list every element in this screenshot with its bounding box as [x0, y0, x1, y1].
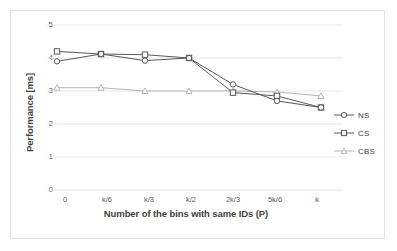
legend-item-cbs[interactable]: CBS [333, 142, 393, 160]
data-point-ns-k/6 [98, 51, 103, 56]
legend-marker-triangle-icon [333, 145, 355, 157]
legend-marker-circle-icon [333, 109, 355, 121]
series-cbs [54, 85, 324, 99]
data-point-ns-k/2 [186, 55, 191, 60]
data-point-cs-0 [54, 49, 59, 54]
chart-legend: NS CS CBS [333, 106, 393, 160]
data-point-cs-2k/3 [230, 90, 235, 95]
series-line-ns [57, 54, 321, 107]
chart-figure: Performance [ms] Number of the bins with… [10, 10, 385, 239]
data-point-ns-k [318, 105, 323, 110]
data-point-cs-k/3 [142, 52, 147, 57]
plot-canvas [11, 11, 386, 240]
legend-marker-square-icon [333, 127, 355, 139]
legend-item-ns[interactable]: NS [333, 106, 393, 124]
data-point-ns-0 [54, 59, 59, 64]
data-point-ns-5k/6 [274, 98, 279, 103]
data-point-ns-k/3 [142, 58, 147, 63]
data-point-ns-2k/3 [230, 82, 235, 87]
legend-item-cs[interactable]: CS [333, 124, 393, 142]
legend-label-cbs: CBS [358, 147, 375, 156]
legend-label-cs: CS [358, 129, 370, 138]
series-ns [54, 51, 323, 110]
legend-label-ns: NS [358, 111, 370, 120]
gridlines [47, 25, 343, 190]
